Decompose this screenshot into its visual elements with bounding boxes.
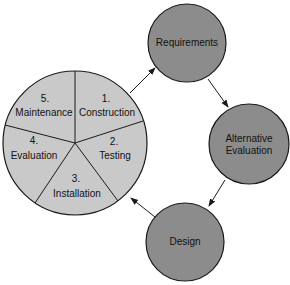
- design-label: Design: [169, 236, 200, 247]
- segment-construction-label: Construction: [79, 107, 135, 118]
- development-pie: 1. Construction 2. Testing 3. Installati…: [3, 71, 147, 215]
- alternative-evaluation-label-line2: Evaluation: [226, 145, 273, 156]
- segment-testing-number: 2.: [110, 136, 118, 147]
- segment-maintenance-label: Maintenance: [15, 107, 73, 118]
- alternative-evaluation-label-line1: Alternative: [225, 133, 273, 144]
- requirements-node: Requirements: [148, 4, 226, 82]
- segment-evaluation-number: 4.: [30, 135, 38, 146]
- segment-testing-label: Testing: [99, 150, 131, 161]
- segment-evaluation-label: Evaluation: [11, 150, 58, 161]
- lifecycle-diagram: 1. Construction 2. Testing 3. Installati…: [0, 0, 290, 285]
- segment-installation-number: 3.: [72, 173, 80, 184]
- arrow-design-to-pie: [131, 198, 155, 217]
- arrow-pie-to-requirements: [130, 68, 155, 93]
- design-node: Design: [146, 203, 224, 281]
- segment-maintenance-number: 5.: [41, 93, 49, 104]
- arrow-alternative-to-design: [209, 180, 225, 206]
- requirements-label: Requirements: [156, 37, 218, 48]
- segment-construction-number: 1.: [102, 93, 110, 104]
- segment-installation-label: Installation: [53, 188, 101, 199]
- arrow-requirements-to-alternative: [208, 79, 228, 107]
- alternative-evaluation-node: Alternative Evaluation: [209, 104, 289, 184]
